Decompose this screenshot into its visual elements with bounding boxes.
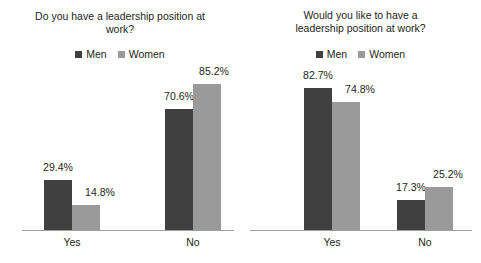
bar-left-no-women — [193, 84, 221, 230]
bar-left-yes-women — [72, 205, 100, 230]
bar-value-left-yes-men: 29.4% — [30, 161, 86, 173]
bar-left-yes-men — [44, 180, 72, 230]
chart-panel-leadership-position-desired: Would you like to have a leadership posi… — [240, 0, 481, 263]
chart-panel-leadership-position-current: Do you have a leadership position at wor… — [0, 0, 240, 263]
x-tick-label-left-yes: Yes — [44, 236, 100, 248]
bar-right-yes-men — [304, 88, 332, 230]
bar-value-right-no-women: 25.2% — [420, 168, 476, 180]
bar-value-left-yes-women: 14.8% — [72, 186, 128, 198]
x-tick-label-left-no: No — [165, 236, 221, 248]
bar-value-right-yes-men: 82.7% — [290, 69, 346, 81]
bar-right-no-men — [397, 200, 425, 230]
x-axis-line-right — [250, 230, 472, 231]
bar-value-left-no-women: 85.2% — [186, 65, 242, 77]
x-tick-label-right-yes: Yes — [304, 236, 360, 248]
plot-area-left: 29.4% 14.8% Yes 70.6% 85.2% No — [0, 0, 240, 263]
bar-right-no-women — [425, 187, 453, 230]
bar-left-no-men — [165, 109, 193, 230]
x-tick-label-right-no: No — [397, 236, 453, 248]
bar-value-right-yes-women: 74.8% — [332, 83, 388, 95]
plot-area-right: 82.7% 74.8% Yes 17.3% 25.2% No — [240, 0, 481, 263]
x-axis-line-left — [22, 230, 234, 231]
bar-right-yes-women — [332, 102, 360, 230]
dual-bar-chart-figure: Do you have a leadership position at wor… — [0, 0, 481, 263]
